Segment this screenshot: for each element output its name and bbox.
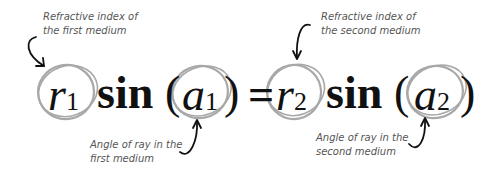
function-sin-right: sin	[326, 70, 382, 116]
subscript-1: 1	[66, 87, 79, 116]
close-paren-right: )	[460, 70, 475, 116]
curved-arrow-up-icon	[180, 120, 201, 154]
annotation-angle-second: Angle of ray in the second medium	[316, 131, 409, 159]
subscript-2: 2	[437, 87, 450, 116]
subscript-1: 1	[205, 87, 218, 116]
annotation-line: Refractive index of	[321, 10, 421, 24]
argument-a2: a2	[414, 72, 450, 118]
annotation-line: the second medium	[321, 24, 421, 38]
symbol-r2: r	[276, 69, 294, 120]
argument-a1: a1	[182, 72, 218, 118]
equals-sign: =	[248, 72, 274, 118]
curved-arrow-up-icon	[409, 118, 429, 147]
annotation-line: the first medium	[43, 24, 138, 38]
subscript-2: 2	[294, 87, 307, 116]
coefficient-r2: r2	[276, 72, 307, 118]
symbol-a1: a	[182, 69, 205, 120]
curved-arrow-down-icon	[293, 25, 310, 59]
annotation-line: Refractive index of	[43, 10, 138, 24]
annotation-angle-first: Angle of ray in the first medium	[90, 138, 183, 166]
symbol-r1: r	[48, 69, 66, 120]
annotation-line: Angle of ray in the	[316, 131, 409, 145]
open-paren-left: (	[165, 70, 180, 116]
curved-arrow-down-icon	[28, 37, 44, 66]
open-paren-right: (	[394, 70, 409, 116]
annotation-line: first medium	[90, 152, 183, 166]
coefficient-r1: r1	[48, 72, 79, 118]
snells-law-diagram: r1 sin ( a1 ) = r2 sin ( a2 ) Refractive…	[0, 0, 485, 176]
function-sin-left: sin	[97, 70, 153, 116]
annotation-line: Angle of ray in the	[90, 138, 183, 152]
annotation-refractive-index-first: Refractive index of the first medium	[43, 10, 138, 38]
symbol-a2: a	[414, 69, 437, 120]
annotation-refractive-index-second: Refractive index of the second medium	[321, 10, 421, 38]
annotation-line: second medium	[316, 145, 409, 159]
close-paren-left: )	[224, 70, 239, 116]
